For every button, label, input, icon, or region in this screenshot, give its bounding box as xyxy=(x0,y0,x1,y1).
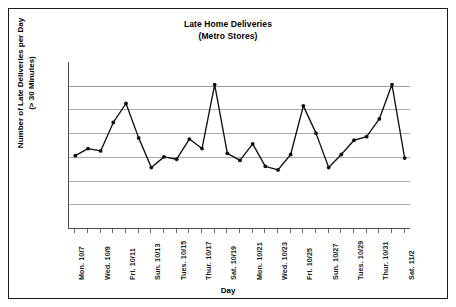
x-tick-label: Thur. 10/17 xyxy=(204,241,213,280)
x-tick xyxy=(150,229,151,233)
x-tick-label: Sat. 11/2 xyxy=(407,250,416,280)
x-tick xyxy=(138,229,139,233)
x-tick xyxy=(163,229,164,233)
data-point xyxy=(314,131,318,135)
x-tick-label: Tues. 10/29 xyxy=(356,241,365,280)
x-axis-title: Day xyxy=(0,286,456,295)
data-point xyxy=(276,168,280,172)
chart-subtitle: (Metro Stores) xyxy=(0,30,456,42)
data-point xyxy=(403,156,407,160)
data-point xyxy=(175,157,179,161)
x-tick xyxy=(112,229,113,233)
data-point xyxy=(200,147,204,151)
data-point xyxy=(377,117,381,121)
x-tick xyxy=(87,229,88,233)
data-point xyxy=(73,154,77,158)
x-tick xyxy=(264,229,265,233)
data-point xyxy=(352,138,356,142)
x-tick-label: Sat. 10/19 xyxy=(229,246,238,280)
data-point xyxy=(327,166,331,170)
x-tick xyxy=(302,229,303,233)
x-tick xyxy=(201,229,202,233)
data-point xyxy=(251,142,255,146)
x-tick-label: Sun. 10/27 xyxy=(331,243,340,280)
data-point xyxy=(263,164,267,168)
x-tick xyxy=(226,229,227,233)
plot-area xyxy=(68,62,410,228)
data-point xyxy=(149,166,153,170)
x-tick-label: Sun. 10/13 xyxy=(153,243,162,280)
data-point xyxy=(124,102,128,106)
data-point xyxy=(289,153,293,157)
x-tick xyxy=(277,229,278,233)
chart-title-block: Late Home Deliveries (Metro Stores) xyxy=(0,18,456,42)
x-tick-label: Fri. 10/11 xyxy=(128,248,137,280)
x-tick-label: Wed. 10/9 xyxy=(103,246,112,280)
x-tick-label: Mon. 10/7 xyxy=(77,246,86,280)
x-axis-ticks xyxy=(68,229,410,233)
x-tick xyxy=(366,229,367,233)
x-tick xyxy=(290,229,291,233)
data-point xyxy=(390,83,394,87)
x-tick xyxy=(315,229,316,233)
x-tick xyxy=(74,229,75,233)
chart-figure: Late Home Deliveries (Metro Stores) Numb… xyxy=(0,0,456,307)
x-tick xyxy=(404,229,405,233)
series-line xyxy=(75,85,404,170)
series-markers xyxy=(73,83,406,172)
x-tick xyxy=(214,229,215,233)
x-tick xyxy=(378,229,379,233)
data-point xyxy=(213,83,217,87)
x-axis-tick-labels: Mon. 10/7Wed. 10/9Fri. 10/11Sun. 10/13Tu… xyxy=(68,234,410,284)
data-point xyxy=(238,159,242,163)
x-tick xyxy=(125,229,126,233)
data-point xyxy=(365,135,369,139)
data-point xyxy=(111,121,115,125)
x-tick xyxy=(188,229,189,233)
x-tick xyxy=(252,229,253,233)
x-tick xyxy=(239,229,240,233)
x-tick-label: Mon. 10/21 xyxy=(255,242,264,280)
x-tick-label: Thur. 10/31 xyxy=(381,241,390,280)
series-plot xyxy=(69,62,411,228)
data-point xyxy=(162,155,166,159)
x-tick-label: Wed. 10/23 xyxy=(280,242,289,280)
data-point xyxy=(301,104,305,108)
x-tick xyxy=(176,229,177,233)
data-point xyxy=(137,136,141,140)
x-tick xyxy=(340,229,341,233)
x-tick xyxy=(353,229,354,233)
data-point xyxy=(187,137,191,141)
data-point xyxy=(86,147,90,151)
data-point xyxy=(225,151,229,155)
chart-title: Late Home Deliveries xyxy=(0,18,456,30)
x-tick xyxy=(100,229,101,233)
x-tick-label: Fri. 10/25 xyxy=(305,248,314,280)
data-point xyxy=(339,153,343,157)
x-tick xyxy=(391,229,392,233)
x-tick xyxy=(328,229,329,233)
data-point xyxy=(99,149,103,153)
x-tick-label: Tues. 10/15 xyxy=(179,241,188,280)
